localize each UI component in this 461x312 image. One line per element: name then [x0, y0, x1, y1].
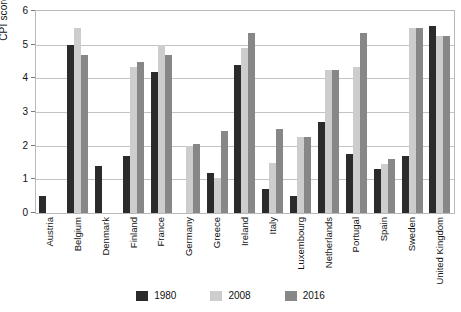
y-axis-tick-label: 0: [2, 207, 28, 218]
bar-group: [175, 11, 203, 213]
x-axis-label-cell: Portugal: [341, 215, 369, 287]
bar-2008-united-kingdom: [436, 36, 443, 213]
y-axis-tick-mark: [31, 145, 35, 146]
bar-2016-france: [165, 55, 172, 213]
bar-2016-sweden: [416, 28, 423, 213]
bar-group: [64, 11, 92, 213]
legend-swatch: [136, 291, 148, 301]
bar-2008-greece: [214, 178, 221, 213]
bar-group: [370, 11, 398, 213]
x-axis-label-cell: Ireland: [230, 215, 258, 287]
bar-1980-luxembourg: [290, 196, 297, 213]
y-axis-tick-label: 2: [2, 139, 28, 150]
bar-2008-portugal: [353, 67, 360, 213]
x-axis-label-cell: United Kingdom: [425, 215, 453, 287]
legend-item: 2008: [210, 290, 250, 301]
bar-1980-france: [151, 72, 158, 213]
bar-2016-portugal: [360, 33, 367, 213]
legend-label: 1980: [154, 290, 176, 301]
y-axis-tick-mark: [31, 111, 35, 112]
y-axis-tick-mark: [31, 10, 35, 11]
y-axis-tick-label: 4: [2, 72, 28, 83]
x-axis-label: Sweden: [406, 217, 417, 251]
x-axis-label: United Kingdom: [433, 217, 444, 285]
bar-group: [287, 11, 315, 213]
x-axis-label: Netherlands: [322, 217, 333, 268]
bar-2008-france: [158, 45, 165, 213]
legend-item: 1980: [136, 290, 176, 301]
legend-swatch: [285, 291, 297, 301]
y-axis-tick-label: 1: [2, 173, 28, 184]
bar-group: [231, 11, 259, 213]
bar-2016-spain: [388, 159, 395, 213]
x-axis-label: France: [155, 217, 166, 247]
bar-group: [342, 11, 370, 213]
bar-group: [426, 11, 454, 213]
y-axis-tick-label: 6: [2, 5, 28, 16]
y-axis-tick-label: 3: [2, 106, 28, 117]
bar-2016-germany: [193, 144, 200, 213]
bar-group: [92, 11, 120, 213]
bar-2016-united-kingdom: [443, 36, 450, 213]
legend-label: 2016: [303, 290, 325, 301]
bar-group: [259, 11, 287, 213]
bar-group: [398, 11, 426, 213]
x-axis-label: Belgium: [71, 217, 82, 251]
bar-2016-belgium: [81, 55, 88, 213]
bar-2008-finland: [130, 67, 137, 213]
x-axis-label-cell: Luxembourg: [286, 215, 314, 287]
x-axis-label: Spain: [378, 217, 389, 241]
bar-2008-netherlands: [325, 70, 332, 213]
bar-groups: [36, 11, 454, 213]
bar-group: [203, 11, 231, 213]
bar-group: [36, 11, 64, 213]
bar-1980-denmark: [95, 166, 102, 213]
bar-group: [315, 11, 343, 213]
x-axis-label: Ireland: [238, 217, 249, 246]
bar-2008-italy: [269, 163, 276, 214]
x-axis-label: Austria: [43, 217, 54, 247]
x-axis-label-cell: Sweden: [397, 215, 425, 287]
x-axis-label: Portugal: [350, 217, 361, 252]
bar-1980-spain: [374, 169, 381, 213]
legend-label: 2008: [228, 290, 250, 301]
x-axis-label-cell: France: [146, 215, 174, 287]
bar-2016-ireland: [248, 33, 255, 213]
y-axis-tick-mark: [31, 44, 35, 45]
bar-2008-germany: [186, 146, 193, 213]
x-axis-label: Italy: [266, 217, 277, 234]
bar-1980-united-kingdom: [429, 26, 436, 213]
bar-1980-netherlands: [318, 122, 325, 213]
x-axis-labels: AustriaBelgiumDenmarkFinlandFranceGerman…: [35, 215, 453, 287]
y-axis-tick-label: 5: [2, 38, 28, 49]
bar-2016-finland: [137, 62, 144, 214]
x-axis-label-cell: Austria: [35, 215, 63, 287]
x-axis-label-cell: Finland: [119, 215, 147, 287]
bar-2008-ireland: [241, 48, 248, 213]
y-axis-tick-mark: [31, 212, 35, 213]
bar-2008-spain: [381, 164, 388, 213]
bar-group: [147, 11, 175, 213]
x-axis-label-cell: Belgium: [63, 215, 91, 287]
x-axis-label: Germany: [183, 217, 194, 256]
y-axis-tick-mark: [31, 77, 35, 78]
x-axis-label: Finland: [127, 217, 138, 248]
x-axis-label-cell: Denmark: [91, 215, 119, 287]
bar-1980-ireland: [234, 65, 241, 213]
x-axis-label-cell: Germany: [174, 215, 202, 287]
bar-2008-luxembourg: [297, 137, 304, 213]
y-axis-tick-mark: [31, 178, 35, 179]
cpi-bar-chart: CPI score 0123456 AustriaBelgiumDenmarkF…: [0, 0, 461, 312]
bar-1980-austria: [39, 196, 46, 213]
x-axis-label: Greece: [211, 217, 222, 248]
x-axis-label-cell: Greece: [202, 215, 230, 287]
x-axis-label-cell: Netherlands: [314, 215, 342, 287]
bar-2016-netherlands: [332, 70, 339, 213]
bar-1980-sweden: [402, 156, 409, 213]
legend-swatch: [210, 291, 222, 301]
x-axis-label-cell: Italy: [258, 215, 286, 287]
bar-2016-italy: [276, 129, 283, 213]
bar-1980-italy: [262, 189, 269, 213]
legend-item: 2016: [285, 290, 325, 301]
bar-1980-belgium: [67, 45, 74, 213]
